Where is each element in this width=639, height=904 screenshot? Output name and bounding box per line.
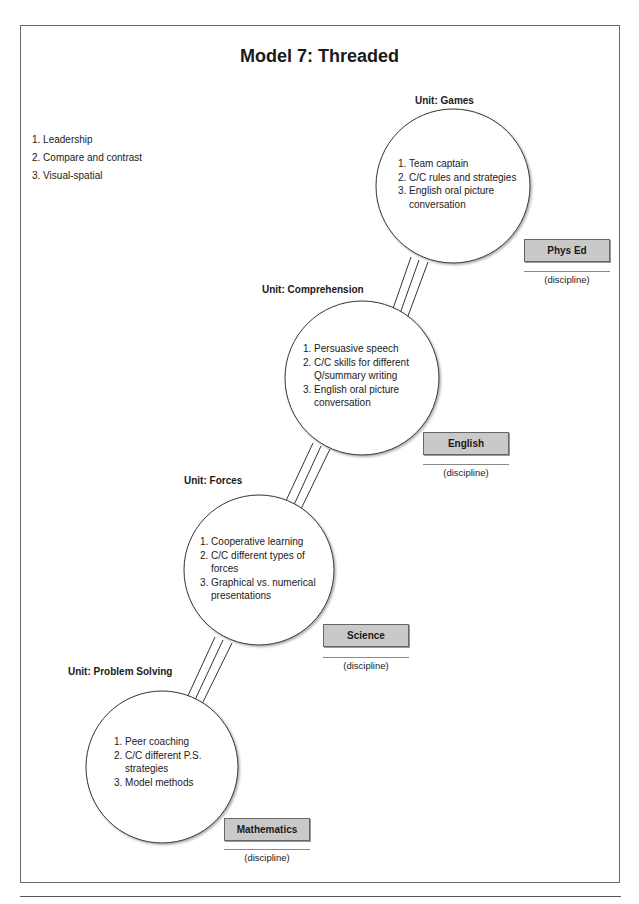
- unit-items-problem-solving: 1. Peer coaching 2. C/C different P.S. s…: [114, 735, 224, 789]
- discipline-caption: (discipline): [423, 467, 509, 478]
- discipline-box-science: Science: [323, 624, 409, 647]
- discipline-rule: [224, 849, 310, 850]
- unit-item: 2. C/C different P.S. strategies: [114, 749, 224, 776]
- unit-label-games: Unit: Games: [415, 95, 474, 106]
- discipline-caption: (discipline): [323, 660, 409, 671]
- unit-label-comprehension: Unit: Comprehension: [262, 284, 364, 295]
- unit-item: 1. Cooperative learning: [200, 535, 328, 549]
- discipline-rule: [524, 271, 610, 272]
- unit-label-forces: Unit: Forces: [184, 475, 242, 486]
- discipline-caption: (discipline): [224, 852, 310, 863]
- discipline-box-english: English: [423, 432, 509, 455]
- discipline-rule: [423, 464, 509, 465]
- unit-item: 2. C/C skills for different Q/summary wr…: [303, 356, 428, 383]
- discipline-box-mathematics: Mathematics: [224, 818, 310, 841]
- unit-label-problem-solving: Unit: Problem Solving: [68, 666, 172, 677]
- unit-item: 1. Team captain: [398, 157, 526, 171]
- discipline-box-phys-ed: Phys Ed: [524, 239, 610, 262]
- unit-item: 2. C/C different types of forces: [200, 549, 328, 576]
- discipline-rule: [323, 657, 409, 658]
- unit-item: 3. English oral picture conversation: [303, 383, 428, 410]
- unit-items-forces: 1. Cooperative learning 2. C/C different…: [200, 535, 328, 603]
- unit-items-comprehension: 1. Persuasive speech 2. C/C skills for d…: [303, 342, 428, 410]
- unit-item: 3. Model methods: [114, 776, 224, 790]
- unit-item: 3. Graphical vs. numerical presentations: [200, 576, 328, 603]
- thread-diagram: [0, 0, 639, 904]
- unit-items-games: 1. Team captain 2. C/C rules and strateg…: [398, 157, 526, 211]
- unit-item: 2. C/C rules and strategies: [398, 171, 526, 185]
- thread-connector-comprehension-forces: [284, 443, 330, 509]
- discipline-caption: (discipline): [524, 274, 610, 285]
- thread-connector-forces-problem-solving: [186, 637, 232, 704]
- unit-item: 1. Persuasive speech: [303, 342, 428, 356]
- unit-item: 1. Peer coaching: [114, 735, 224, 749]
- unit-item: 3. English oral picture conversation: [398, 184, 526, 211]
